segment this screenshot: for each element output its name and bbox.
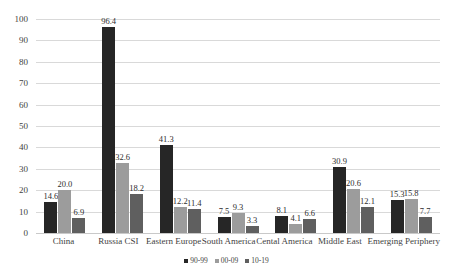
bar-with-label: 12.1 [361,207,374,233]
bar-group: 14.620.06.9 [36,19,94,233]
bar[interactable] [289,224,302,233]
bar-container: 20.0 [58,19,71,233]
x-axis-category-label: Middle East [312,236,367,247]
bar-group: 41.312.211.4 [151,19,209,233]
bar-container: 9.3 [232,19,245,233]
bar-value-label: 41.3 [159,135,174,144]
bar-container: 7.5 [218,19,231,233]
bar-with-label: 8.1 [275,216,288,233]
y-axis-tick-label: 50 [19,122,28,131]
bar-value-label: 11.4 [187,199,202,208]
bar-with-label: 3.3 [246,226,259,233]
bar-value-label: 6.9 [74,208,85,217]
y-axis-tick-label: 0 [24,229,29,238]
bar[interactable] [58,190,71,233]
bar-container: 6.6 [303,19,316,233]
bar-group: 7.59.33.3 [209,19,267,233]
bar-container: 3.3 [246,19,259,233]
legend-item[interactable]: 00-09 [215,257,239,265]
bar-cluster: 7.59.33.3 [209,19,267,233]
y-axis-tick-label: 90 [19,36,28,45]
y-axis: 0102030405060708090100 [0,19,32,233]
bar-group: 30.920.612.1 [325,19,383,233]
bar-container: 12.2 [174,19,187,233]
bar-cluster: 14.620.06.9 [36,19,94,233]
x-axis-category-label: China [36,236,91,247]
bar[interactable] [174,207,187,233]
bar-groups: 14.620.06.996.432.618.241.312.211.47.59.… [36,19,440,233]
bar[interactable] [72,218,85,233]
bar-with-label: 9.3 [232,213,245,233]
bar[interactable] [361,207,374,233]
bar-cluster: 96.432.618.2 [94,19,152,233]
bar-with-label: 41.3 [160,145,173,233]
bar[interactable] [419,217,432,233]
bar-with-label: 32.6 [116,163,129,233]
bar[interactable] [391,200,404,233]
bar[interactable] [188,209,201,233]
y-axis-tick-label: 20 [19,186,28,195]
bar-container: 4.1 [289,19,302,233]
bar-with-label: 6.6 [303,219,316,233]
legend-label: 10-19 [251,257,269,265]
bar[interactable] [303,219,316,233]
bar-value-label: 6.6 [304,209,315,218]
y-axis-tick-label: 30 [19,164,28,173]
y-axis-tick-label: 40 [19,143,28,152]
bar[interactable] [246,226,259,233]
bar[interactable] [116,163,129,233]
bar-container: 41.3 [160,19,173,233]
legend-swatch-icon [184,259,188,263]
bar[interactable] [333,167,346,233]
bar-value-label: 12.2 [173,197,188,206]
bar-with-label: 18.2 [130,194,143,233]
bar[interactable] [275,216,288,233]
bar-with-label: 12.2 [174,207,187,233]
bar[interactable] [130,194,143,233]
bar-with-label: 7.5 [218,217,231,233]
x-axis-category-label: Emerging Periphery [367,236,440,247]
bar[interactable] [218,217,231,233]
bar-with-label: 6.9 [72,218,85,233]
bar-with-label: 14.6 [44,202,57,233]
bar-cluster: 8.14.16.6 [267,19,325,233]
gridline [36,233,440,234]
bar-with-label: 30.9 [333,167,346,233]
bar[interactable] [347,189,360,233]
bar-container: 12.1 [361,19,374,233]
bar[interactable] [160,145,173,233]
bar-container: 18.2 [130,19,143,233]
bar[interactable] [405,199,418,233]
bar[interactable] [102,27,115,233]
bar-value-label: 7.7 [420,207,431,216]
legend-label: 00-09 [221,257,239,265]
y-axis-tick-label: 60 [19,100,28,109]
legend-item[interactable]: 90-99 [184,257,208,265]
bar-value-label: 7.5 [219,207,230,216]
bar-value-label: 3.3 [247,216,258,225]
bar-group: 8.14.16.6 [267,19,325,233]
bar-container: 15.8 [405,19,418,233]
bar[interactable] [232,213,245,233]
bar-value-label: 9.3 [233,203,244,212]
bar-value-label: 30.9 [332,157,347,166]
bar-with-label: 15.3 [391,200,404,233]
y-axis-tick-label: 80 [19,57,28,66]
bar-cluster: 15.315.87.7 [382,19,440,233]
x-axis-category-label: Cental America [256,236,312,247]
bar-value-label: 18.2 [129,184,144,193]
bar-value-label: 14.6 [43,192,58,201]
legend-item[interactable]: 10-19 [245,257,269,265]
bar-container: 7.7 [419,19,432,233]
bar-container: 15.3 [391,19,404,233]
y-axis-tick-label: 10 [19,207,28,216]
bar[interactable] [44,202,57,233]
bar-with-label: 20.0 [58,190,71,233]
bar-with-label: 7.7 [419,217,432,233]
bar-container: 6.9 [72,19,85,233]
bar-with-label: 15.8 [405,199,418,233]
bar-container: 96.4 [102,19,115,233]
y-axis-tick-label: 70 [19,79,28,88]
bar-group: 96.432.618.2 [94,19,152,233]
x-axis-category-label: Eastern Europe [146,236,201,247]
